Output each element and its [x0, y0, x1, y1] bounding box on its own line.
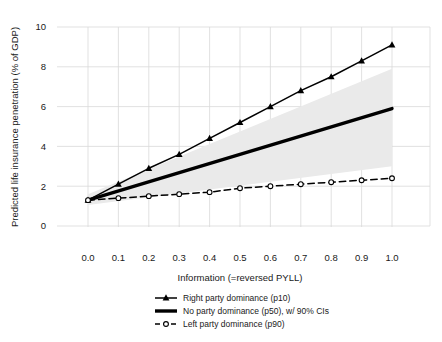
circle-marker	[116, 196, 121, 201]
legend-item-left-party: Left party dominance (p90)	[155, 319, 329, 329]
circle-marker	[207, 190, 212, 195]
legend-label: No party dominance (p50), w/ 90% CIs	[183, 306, 329, 316]
circle-marker	[298, 182, 303, 187]
y-tick-label: 2	[41, 181, 46, 192]
legend-item-right-party: Right party dominance (p10)	[155, 293, 329, 303]
circle-marker	[268, 184, 273, 189]
x-axis-title: Information (=reversed PYLL)	[88, 272, 392, 283]
circle-marker	[329, 180, 334, 185]
x-tick-label: 0.0	[81, 252, 94, 263]
x-tick-label: 0.6	[264, 252, 277, 263]
circle-marker	[86, 198, 91, 203]
y-tick-label: 6	[41, 101, 46, 112]
triangle-marker	[389, 41, 396, 47]
x-tick-label: 1.0	[385, 252, 398, 263]
legend-label: Right party dominance (p10)	[183, 293, 290, 303]
x-tick-label: 0.7	[294, 252, 307, 263]
circle-marker	[177, 192, 182, 197]
x-tick-label: 0.9	[355, 252, 368, 263]
legend-item-no-party: No party dominance (p50), w/ 90% CIs	[155, 306, 329, 316]
x-tick-label: 0.4	[203, 252, 216, 263]
circle-marker	[359, 178, 364, 183]
dashed-circle-line-icon	[155, 319, 177, 329]
y-tick-label: 10	[35, 21, 46, 32]
x-tick-label: 0.5	[233, 252, 246, 263]
legend: Right party dominance (p10) No party dom…	[155, 293, 329, 329]
circle-marker	[238, 186, 243, 191]
y-axis-title: Predicted life insurance penetration (% …	[9, 27, 20, 227]
chart: 02468100.00.10.20.30.40.50.60.70.80.91.0…	[0, 0, 442, 342]
x-tick-label: 0.8	[325, 252, 338, 263]
x-tick-label: 0.1	[112, 252, 125, 263]
triangle-line-icon	[155, 293, 177, 303]
x-tick-label: 0.2	[142, 252, 155, 263]
thick-line-icon	[155, 306, 177, 316]
x-tick-label: 0.3	[173, 252, 186, 263]
y-tick-label: 0	[41, 220, 46, 231]
circle-marker	[146, 194, 151, 199]
legend-label: Left party dominance (p90)	[183, 319, 285, 329]
circle-marker	[390, 176, 395, 181]
y-tick-label: 8	[41, 61, 46, 72]
chart-canvas: 02468100.00.10.20.30.40.50.60.70.80.91.0	[0, 0, 442, 342]
y-tick-label: 4	[41, 141, 46, 152]
